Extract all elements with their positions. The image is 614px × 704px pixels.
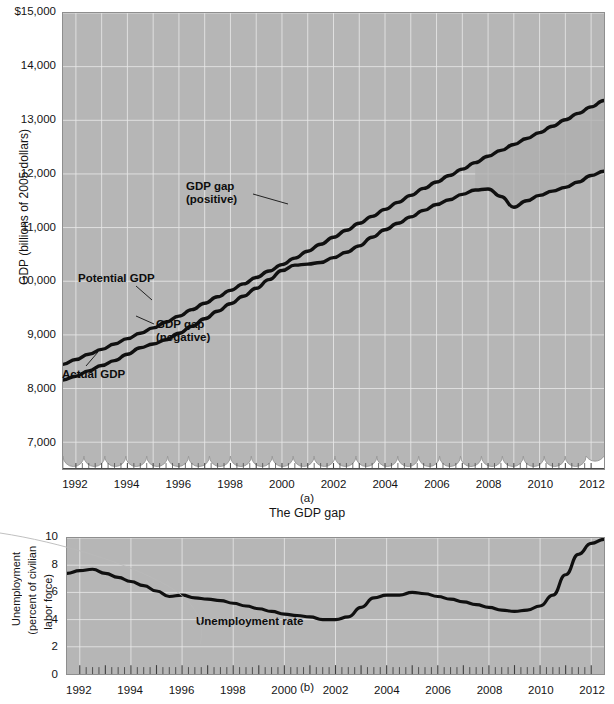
annotation-gdp-gap-negative: GDP gap (negative) bbox=[156, 318, 210, 344]
panel-unemployment: Unemployment (percent of civilian labor … bbox=[0, 520, 614, 704]
panel-a-x-tick: 2000 bbox=[269, 478, 295, 490]
panel-a-y-tick: 7,000 bbox=[0, 436, 56, 448]
panel-a-x-tick: 2006 bbox=[424, 478, 450, 490]
panel-gdp-gap: GDP (billions of 2005 dollars) $15,00014… bbox=[0, 0, 614, 520]
panel-a-x-tick: 1996 bbox=[166, 478, 192, 490]
panel-a-chart-svg bbox=[63, 13, 604, 469]
panel-a-x-tick: 1994 bbox=[114, 478, 140, 490]
panel-b-y-tick: 2 bbox=[4, 640, 58, 652]
panel-a-x-tick: 2002 bbox=[321, 478, 347, 490]
panel-a-plot-area bbox=[62, 12, 605, 470]
panel-a-y-tick: 14,000 bbox=[0, 59, 56, 71]
panel-b-chart-svg bbox=[67, 538, 604, 674]
panel-a-x-tick: 2008 bbox=[476, 478, 502, 490]
annotation-gdp-gap-positive: GDP gap (positive) bbox=[186, 180, 237, 206]
panel-a-x-tick: 2012 bbox=[579, 478, 605, 490]
panel-a-x-tick: 1998 bbox=[217, 478, 243, 490]
panel-b-plot-area bbox=[66, 537, 605, 675]
panel-a-y-tick: 12,000 bbox=[0, 167, 56, 179]
figure-root: GDP (billions of 2005 dollars) $15,00014… bbox=[0, 0, 614, 704]
panel-b-y-tick: 4 bbox=[4, 613, 58, 625]
panel-a-x-tick: 1992 bbox=[62, 478, 88, 490]
panel-b-caption: (b) bbox=[0, 681, 614, 693]
panel-a-y-tick: 11,000 bbox=[0, 221, 56, 233]
panel-a-y-tick: $15,000 bbox=[0, 5, 56, 17]
panel-a-x-tick: 2004 bbox=[372, 478, 398, 490]
panel-a-y-tick: 13,000 bbox=[0, 113, 56, 125]
panel-b-y-tick: 8 bbox=[4, 558, 58, 570]
panel-b-y-tick: 0 bbox=[4, 668, 58, 680]
annotation-unemployment-rate: Unemployment rate bbox=[196, 615, 303, 628]
panel-b-y-tick: 10 bbox=[4, 530, 58, 542]
panel-a-y-tick: 9,000 bbox=[0, 328, 56, 340]
panel-a-subtitle: The GDP gap bbox=[0, 506, 614, 520]
panel-a-y-tick: 8,000 bbox=[0, 382, 56, 394]
panel-b-y-tick: 6 bbox=[4, 585, 58, 597]
panel-a-caption: (a) bbox=[0, 492, 614, 504]
annotation-actual-gdp: Actual GDP bbox=[62, 368, 125, 381]
panel-a-y-tick: 10,000 bbox=[0, 274, 56, 286]
panel-a-x-tick: 2010 bbox=[528, 478, 554, 490]
annotation-potential-gdp: Potential GDP bbox=[78, 272, 155, 285]
